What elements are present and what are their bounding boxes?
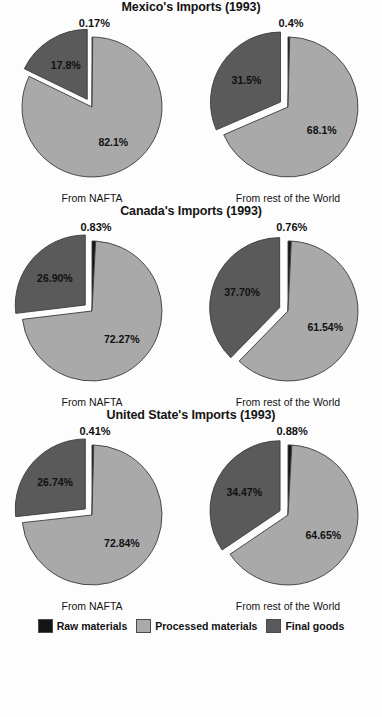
pie-svg: 0.76%61.54%37.70%	[200, 219, 376, 395]
legend-label-final-goods: Final goods	[285, 620, 344, 632]
legend-swatch-raw-materials	[38, 619, 53, 633]
chart-legend: Raw materials Processed materials Final …	[0, 619, 382, 633]
panel-usa: United State's Imports (1993) 0.41%72.84…	[0, 408, 382, 612]
legend-swatch-processed-materials	[136, 619, 151, 633]
pie-cell-mexico-nafta: 0.17%82.1%17.8% From NAFTA	[4, 15, 180, 204]
panel-title-mexico: Mexico's Imports (1993)	[0, 0, 382, 15]
pie-caption-usa-nafta: From NAFTA	[61, 600, 122, 612]
legend-item-final-goods[interactable]: Final goods	[266, 619, 344, 633]
pie-chart-mexico-nafta[interactable]: 0.17%82.1%17.8%	[4, 15, 180, 191]
pie-chart-mexico-world[interactable]: 0.4%68.1%31.5%	[200, 15, 376, 191]
pie-chart-usa-nafta[interactable]: 0.41%72.84%26.74%	[4, 423, 180, 599]
pie-caption-usa-world: From rest of the World	[236, 600, 340, 612]
pie-value-label-processed-materials: 82.1%	[98, 136, 128, 148]
pies-row-canada: 0.83%72.27%26.90% From NAFTA 0.76%61.54%…	[0, 219, 382, 408]
pie-value-label-raw-materials: 0.88%	[276, 425, 307, 437]
pie-caption-canada-nafta: From NAFTA	[61, 396, 122, 408]
pie-value-label-raw-materials: 0.4%	[278, 17, 303, 29]
imports-pie-figure: Mexico's Imports (1993) 0.17%82.1%17.8% …	[0, 0, 382, 717]
pie-value-label-processed-materials: 61.54%	[307, 321, 343, 333]
pie-value-label-raw-materials: 0.76%	[276, 221, 307, 233]
pie-value-label-final-goods: 34.47%	[226, 486, 262, 498]
pie-svg: 0.41%72.84%26.74%	[4, 423, 180, 599]
pies-row-usa: 0.41%72.84%26.74% From NAFTA 0.88%64.65%…	[0, 423, 382, 612]
pie-cell-usa-nafta: 0.41%72.84%26.74% From NAFTA	[4, 423, 180, 612]
pie-value-label-final-goods: 37.70%	[224, 286, 260, 298]
pie-value-label-raw-materials: 0.41%	[79, 425, 110, 437]
pie-caption-mexico-nafta: From NAFTA	[61, 192, 122, 204]
pie-value-label-final-goods: 26.90%	[37, 272, 73, 284]
pie-svg: 0.4%68.1%31.5%	[200, 15, 376, 191]
legend-label-raw-materials: Raw materials	[57, 620, 128, 632]
legend-item-processed-materials[interactable]: Processed materials	[136, 619, 257, 633]
pie-cell-canada-world: 0.76%61.54%37.70% From rest of the World	[200, 219, 376, 408]
pie-cell-usa-world: 0.88%64.65%34.47% From rest of the World	[200, 423, 376, 612]
pie-cell-canada-nafta: 0.83%72.27%26.90% From NAFTA	[4, 219, 180, 408]
pie-value-label-processed-materials: 64.65%	[305, 529, 341, 541]
pies-row-mexico: 0.17%82.1%17.8% From NAFTA 0.4%68.1%31.5…	[0, 15, 382, 204]
pie-value-label-processed-materials: 68.1%	[307, 124, 337, 136]
pie-value-label-final-goods: 17.8%	[51, 59, 81, 71]
legend-item-raw-materials[interactable]: Raw materials	[38, 619, 128, 633]
pie-value-label-final-goods: 26.74%	[37, 476, 73, 488]
pie-caption-canada-world: From rest of the World	[236, 396, 340, 408]
pie-chart-canada-nafta[interactable]: 0.83%72.27%26.90%	[4, 219, 180, 395]
pie-chart-canada-world[interactable]: 0.76%61.54%37.70%	[200, 219, 376, 395]
legend-label-processed-materials: Processed materials	[155, 620, 257, 632]
pie-cell-mexico-world: 0.4%68.1%31.5% From rest of the World	[200, 15, 376, 204]
pie-svg: 0.88%64.65%34.47%	[200, 423, 376, 599]
pie-value-label-processed-materials: 72.27%	[104, 333, 140, 345]
pie-value-label-final-goods: 31.5%	[232, 74, 262, 86]
pie-caption-mexico-world: From rest of the World	[236, 192, 340, 204]
pie-chart-usa-world[interactable]: 0.88%64.65%34.47%	[200, 423, 376, 599]
panel-canada: Canada's Imports (1993) 0.83%72.27%26.90…	[0, 204, 382, 408]
pie-value-label-processed-materials: 72.84%	[104, 537, 140, 549]
panel-title-canada: Canada's Imports (1993)	[0, 204, 382, 219]
pie-svg: 0.83%72.27%26.90%	[4, 219, 180, 395]
pie-value-label-raw-materials: 0.17%	[79, 17, 110, 29]
pie-value-label-raw-materials: 0.83%	[80, 221, 111, 233]
panel-mexico: Mexico's Imports (1993) 0.17%82.1%17.8% …	[0, 0, 382, 204]
pie-svg: 0.17%82.1%17.8%	[4, 15, 180, 191]
panel-title-usa: United State's Imports (1993)	[0, 408, 382, 423]
legend-swatch-final-goods	[266, 619, 281, 633]
